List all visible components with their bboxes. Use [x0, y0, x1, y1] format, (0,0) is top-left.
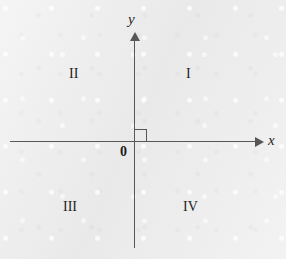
- coordinate-plane-figure: y x 0 I II III IV: [0, 0, 286, 259]
- quadrant-iv-label: IV: [183, 200, 198, 214]
- quadrant-i-label: I: [186, 67, 191, 81]
- quadrant-ii-label: II: [69, 67, 78, 81]
- y-axis-label: y: [128, 12, 135, 27]
- x-axis-label: x: [268, 133, 275, 148]
- quadrant-iii-label: III: [63, 200, 77, 214]
- origin-label: 0: [120, 145, 127, 159]
- y-axis-line: [134, 40, 135, 248]
- y-axis-arrowhead-icon: [130, 32, 140, 41]
- right-angle-marker-icon: [135, 129, 147, 141]
- x-axis-arrowhead-icon: [255, 137, 264, 147]
